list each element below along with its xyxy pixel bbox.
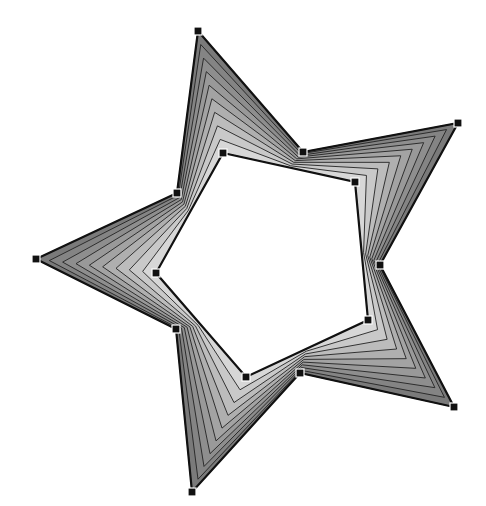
outer-vertex-handle[interactable]: [296, 369, 304, 377]
outer-vertex-handle[interactable]: [454, 119, 462, 127]
inner-vertex-handle[interactable]: [152, 269, 160, 277]
outer-vertex-handle[interactable]: [194, 27, 202, 35]
inner-vertex-handle[interactable]: [242, 373, 250, 381]
inner-vertex-handle[interactable]: [351, 178, 359, 186]
inner-vertex-handle[interactable]: [219, 149, 227, 157]
inner-vertex-handle[interactable]: [364, 316, 372, 324]
outer-vertex-handle[interactable]: [376, 261, 384, 269]
outer-vertex-handle[interactable]: [299, 148, 307, 156]
blend-diagram-canvas: [0, 0, 486, 506]
outer-vertex-handle[interactable]: [188, 488, 196, 496]
outer-vertex-handle[interactable]: [172, 325, 180, 333]
outer-vertex-handle[interactable]: [32, 255, 40, 263]
outer-vertex-handle[interactable]: [450, 403, 458, 411]
outer-vertex-handle[interactable]: [173, 189, 181, 197]
